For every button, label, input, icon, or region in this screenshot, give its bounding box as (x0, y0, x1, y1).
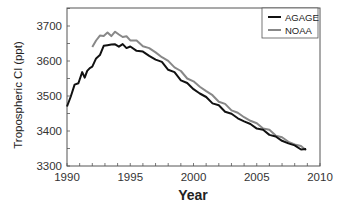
x-tick-label: 2005 (244, 171, 270, 183)
x-axis-title: Year (178, 187, 208, 203)
y-tick-label: 3300 (36, 160, 62, 172)
y-tick-label: 3400 (36, 125, 62, 137)
y-axis-title: Tropospheric Cl (ppt) (12, 41, 24, 149)
legend: AGAGE NOAA (262, 8, 319, 38)
x-tick-label: 1995 (117, 171, 143, 183)
x-axis-tick-labels: 19901995200020052010 (54, 171, 333, 183)
x-tick-label: 1990 (54, 171, 80, 183)
chart: 19901995200020052010 3300340035003600370… (0, 0, 346, 212)
y-axis-tick-labels: 33003400350036003700 (36, 20, 62, 172)
legend-label-agage: AGAGE (285, 12, 319, 23)
y-tick-label: 3500 (36, 90, 62, 102)
x-axis-ticks (67, 163, 320, 166)
x-tick-label: 2000 (181, 171, 207, 183)
legend-label-noaa: NOAA (285, 25, 313, 36)
y-tick-label: 3700 (36, 20, 62, 32)
x-tick-label: 2010 (307, 171, 333, 183)
y-tick-label: 3600 (36, 55, 62, 67)
